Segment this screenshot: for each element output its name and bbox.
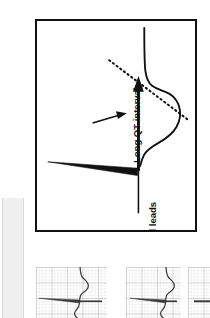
qrs-spike — [48, 162, 138, 176]
label-all-leads: All leads — [147, 202, 158, 232]
dotted-reference-line — [109, 60, 187, 119]
ecg-strip-1 — [36, 267, 107, 318]
ecg-trace — [136, 28, 180, 169]
row-label-band — [2, 198, 24, 318]
label-long-qt-interval: Long QT interval — [131, 88, 142, 163]
ecg-strip-2 — [126, 267, 181, 318]
ecg-schematic-diagram — [37, 21, 195, 230]
callout-arrow-shaft — [93, 115, 119, 123]
callout-arrow-head — [116, 111, 127, 119]
schematic-panel: Long QT interval All leads — [35, 19, 197, 232]
ecg-grid-background — [188, 267, 210, 318]
ecg-strip-1-graphic — [36, 267, 107, 318]
ecg-strip-2-graphic — [126, 267, 181, 318]
ecg-strip-3 — [188, 267, 210, 318]
ecg-strip-3-graphic — [188, 267, 210, 318]
ecg-grid-background — [126, 267, 181, 318]
ecg-grid-background — [36, 267, 107, 318]
